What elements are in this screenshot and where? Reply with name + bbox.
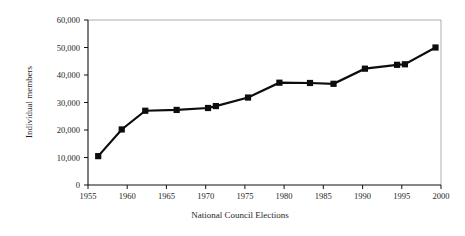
x-tick-label: 1975 xyxy=(236,191,253,201)
y-tick-label: 50,000 xyxy=(57,43,80,53)
data-point xyxy=(330,81,336,87)
y-tick-label: 0 xyxy=(76,180,80,190)
x-tick-label: 1970 xyxy=(197,191,214,201)
data-point xyxy=(307,80,313,86)
y-axis-title: Individual members xyxy=(24,65,34,138)
data-point xyxy=(402,61,408,67)
y-tick-label: 30,000 xyxy=(57,98,80,108)
x-tick-label: 1980 xyxy=(276,191,293,201)
line-chart: 0 10,000 20,000 30,000 40,000 50,000 60,… xyxy=(0,0,465,236)
series-line xyxy=(98,48,435,157)
y-tick-label: 10,000 xyxy=(57,153,80,163)
y-tick-labels: 0 10,000 20,000 30,000 40,000 50,000 60,… xyxy=(57,15,80,190)
data-point xyxy=(119,126,125,132)
x-tick-label: 1955 xyxy=(80,191,97,201)
y-tick-marks xyxy=(84,20,88,185)
data-point xyxy=(205,105,211,111)
data-point xyxy=(245,94,251,100)
chart-figure: 0 10,000 20,000 30,000 40,000 50,000 60,… xyxy=(0,0,465,236)
data-point xyxy=(276,80,282,86)
data-point xyxy=(142,108,148,114)
x-tick-label: 1995 xyxy=(393,191,410,201)
x-tick-label: 1985 xyxy=(315,191,332,201)
data-point xyxy=(432,44,438,50)
x-tick-marks xyxy=(88,185,441,189)
y-tick-label: 20,000 xyxy=(57,125,80,135)
x-tick-label: 1965 xyxy=(158,191,175,201)
data-point xyxy=(362,66,368,72)
x-tick-label: 2000 xyxy=(433,191,450,201)
series-markers xyxy=(95,44,439,159)
data-point xyxy=(213,103,219,109)
data-point xyxy=(95,153,101,159)
x-tick-label: 1960 xyxy=(119,191,136,201)
x-tick-label: 1990 xyxy=(354,191,371,201)
data-point xyxy=(394,62,400,68)
data-series xyxy=(95,44,439,159)
y-tick-label: 60,000 xyxy=(57,15,80,25)
x-tick-labels: 1955 1960 1965 1970 1975 1980 1985 1990 … xyxy=(80,191,450,201)
data-point xyxy=(174,107,180,113)
x-axis-title: National Council Elections xyxy=(191,210,289,220)
y-tick-label: 40,000 xyxy=(57,70,80,80)
plot-frame xyxy=(88,20,441,185)
